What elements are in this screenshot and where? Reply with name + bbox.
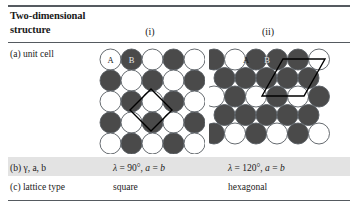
atom-b-hex <box>277 105 298 126</box>
atom-b-square <box>163 133 184 154</box>
atom-label-b-square: B <box>129 55 135 65</box>
row-label-lattice-type: (c) lattice type <box>10 182 65 192</box>
top-rule <box>8 5 350 7</box>
row-label-gamma-a-b: (b) γ, a, b <box>10 163 46 173</box>
atom-b-hex <box>256 68 277 89</box>
hexagonal-lattice-diagram: A B <box>209 46 331 154</box>
cell-c-i: square <box>113 182 138 192</box>
atom-b-square <box>163 91 184 112</box>
atom-b-hex <box>298 68 319 89</box>
atom-b-hex <box>298 105 319 126</box>
atom-a-square <box>142 133 163 154</box>
atom-b-hex <box>214 105 235 126</box>
table-header-title: Two-dimensional structure <box>10 9 120 37</box>
atom-a-square <box>100 91 121 112</box>
atom-a-square <box>184 91 205 112</box>
atom-b-hex <box>277 68 298 89</box>
header-rule <box>8 42 350 43</box>
atom-b-hex <box>235 105 256 126</box>
atom-a-square <box>142 49 163 70</box>
cell-b-ii: λ = 120°, a = b <box>228 163 285 173</box>
cell-b-ii-eq1: = 120°, <box>232 163 265 173</box>
atom-b-square <box>142 70 163 91</box>
column-header-i: (i) <box>110 26 190 37</box>
table-header-title-line1: Two-dimensional <box>10 9 120 23</box>
cell-b-ii-b: b <box>280 163 285 173</box>
atom-b-square <box>184 112 205 133</box>
row-b-highlight-band <box>8 157 350 176</box>
atom-a-hex <box>309 123 330 144</box>
table-header-title-line2: structure <box>10 23 120 37</box>
cell-b-i-eq1: = 90°, <box>117 163 145 173</box>
atom-a-square <box>121 70 142 91</box>
atom-b-hex <box>288 123 309 144</box>
atom-b-square <box>184 70 205 91</box>
atom-b-hex <box>209 123 225 144</box>
atom-b-square <box>163 49 184 70</box>
two-dimensional-structure-table: Two-dimensional structure (i) (ii) (a) u… <box>0 0 358 213</box>
atom-b-square <box>121 133 142 154</box>
atom-a-square <box>163 70 184 91</box>
row-label-unit-cell: (a) unit cell <box>10 49 54 59</box>
atom-b-hex <box>246 123 267 144</box>
atom-b-hex <box>214 68 235 89</box>
atom-b-square <box>100 112 121 133</box>
atom-label-a-hex: A <box>243 55 250 65</box>
atom-label-b-hex: B <box>264 55 270 65</box>
square-lattice-svg: A B <box>97 46 205 154</box>
cell-b-i-eq2: = <box>150 163 160 173</box>
bottom-rule <box>8 200 350 201</box>
atom-a-square <box>184 133 205 154</box>
atom-b-square <box>100 70 121 91</box>
cell-c-ii: hexagonal <box>228 182 267 192</box>
atom-a-hex <box>209 86 225 107</box>
atom-b-hex <box>235 68 256 89</box>
atom-a-square <box>100 133 121 154</box>
atom-a-square <box>121 112 142 133</box>
cell-b-i-b: b <box>160 163 165 173</box>
cell-b-i: λ = 90°, a = b <box>113 163 165 173</box>
atom-a-hex <box>267 123 288 144</box>
atom-a-square <box>184 49 205 70</box>
atom-label-a-square: A <box>107 55 114 65</box>
atom-b-hex <box>256 105 277 126</box>
column-header-ii: (ii) <box>228 26 308 37</box>
atom-a-hex <box>225 123 246 144</box>
atom-b-hex <box>209 49 225 70</box>
atom-b-hex <box>309 86 330 107</box>
square-lattice-diagram: A B <box>97 46 205 154</box>
atom-b-hex <box>225 86 246 107</box>
hexagonal-lattice-svg: A B <box>209 46 331 154</box>
cell-b-ii-eq2: = <box>270 163 280 173</box>
